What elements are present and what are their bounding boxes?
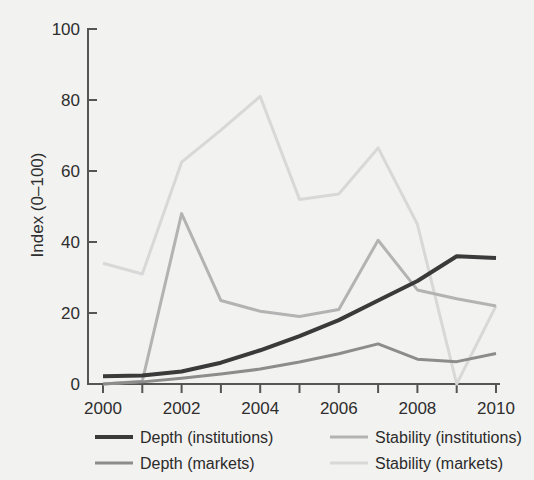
y-tick-label: 80 (61, 91, 80, 110)
y-axis-title: Index (0–100) (28, 153, 47, 258)
line-chart: Index (0–100) 020406080100 2000200220042… (0, 0, 534, 480)
legend-label: Stability (institutions) (375, 429, 522, 446)
y-axis-title-text: Index (0–100) (28, 153, 47, 258)
x-tick-label: 2004 (241, 399, 279, 418)
x-tick-label: 2010 (477, 399, 515, 418)
x-tick-label: 2002 (163, 399, 201, 418)
y-tick-label: 60 (61, 162, 80, 181)
y-tick-label: 40 (61, 233, 80, 252)
legend-label: Stability (markets) (375, 455, 503, 472)
chart-figure: Index (0–100) 020406080100 2000200220042… (0, 0, 534, 480)
legend-label: Depth (markets) (140, 455, 255, 472)
y-tick-label: 100 (52, 20, 80, 39)
x-tick-label: 2008 (398, 399, 436, 418)
y-tick-label: 20 (61, 304, 80, 323)
y-tick-label: 0 (71, 375, 80, 394)
x-tick-label: 2006 (320, 399, 358, 418)
x-tick-label: 2000 (84, 399, 122, 418)
legend-label: Depth (institutions) (140, 429, 273, 446)
